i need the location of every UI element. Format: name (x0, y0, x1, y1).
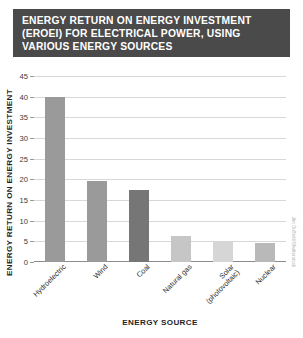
bar (255, 243, 274, 262)
chart-figure: ENERGY RETURN ON ENERGY INVESTMENT (EROE… (0, 0, 303, 338)
bar (87, 181, 106, 262)
bar (129, 190, 148, 262)
plot-area: 051015202530354045 (34, 76, 286, 262)
y-axis-tick-label: 0 (24, 258, 28, 267)
bar (171, 236, 190, 262)
y-axis-tick-label: 10 (20, 216, 28, 225)
y-axis-tick-label: 45 (20, 72, 28, 81)
chart-title-banner: ENERGY RETURN ON ENERGY INVESTMENT (EROE… (13, 9, 290, 57)
bar (213, 241, 232, 262)
bar-series (34, 76, 286, 262)
y-axis-title-text: ENERGY RETURN ON ENERGY INVESTMENT (5, 89, 14, 276)
x-axis-tick-labels: HydroelectricWindCoalNatural gasSolar(ph… (34, 263, 286, 315)
image-credit: Jim Duffield/Shutterstock (291, 238, 302, 334)
chart-title-line-1: ENERGY RETURN ON ENERGY INVESTMENT (22, 14, 281, 27)
y-axis-tick-label: 25 (20, 154, 28, 163)
y-axis-tick-label: 5 (24, 237, 28, 246)
y-axis-title: ENERGY RETURN ON ENERGY INVESTMENT (2, 96, 16, 268)
y-axis-tick-label: 40 (20, 92, 28, 101)
image-credit-text: Jim Duffield/Shutterstock (292, 217, 297, 268)
x-axis-title: ENERGY SOURCE (34, 318, 286, 327)
y-axis-tick-label: 30 (20, 134, 28, 143)
y-axis-tick-label: 20 (20, 175, 28, 184)
y-axis-tick-label: 15 (20, 196, 28, 205)
chart-title-line-3: VARIOUS ENERGY SOURCES (22, 40, 281, 53)
y-axis-tick-label: 35 (20, 113, 28, 122)
bar (45, 97, 64, 262)
chart-title-line-2: (EROEI) FOR ELECTRICAL POWER, USING (22, 27, 281, 40)
